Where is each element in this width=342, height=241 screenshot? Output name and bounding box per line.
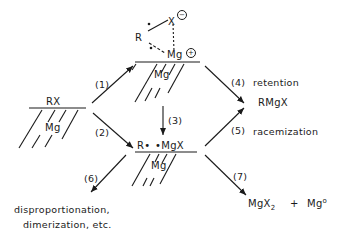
mg0-superscript: o: [323, 197, 328, 205]
r-radical-label: R•: [137, 141, 150, 151]
radical-dot-r-top: [148, 23, 151, 26]
grignard-product-label: RMgX: [258, 98, 288, 108]
complex-mg-label: Mg: [167, 50, 183, 60]
step-4-label: (4): [231, 78, 245, 88]
retention-label: retention: [253, 78, 299, 88]
side-products-line1: disproportionation,: [14, 205, 110, 215]
mechanism-diagram: RX Mg R X − Mg + Mg R• •MgX Mg (1) (2) (…: [0, 0, 342, 241]
start-mg-label: Mg: [45, 123, 61, 133]
step-6-label: (6): [84, 174, 98, 184]
plus-sign: +: [290, 199, 299, 209]
mg0-text: Mg: [307, 198, 323, 209]
step-1-label: (1): [95, 80, 109, 90]
complex-r-label: R: [135, 33, 142, 43]
step-7-label: (7): [233, 172, 247, 182]
step-5-label: (5): [231, 126, 245, 136]
r-x-bond: [148, 20, 168, 31]
mgx2-subscript: 2: [271, 204, 276, 212]
complex-mg-surface: [132, 62, 200, 102]
complex-x-label: X: [168, 17, 175, 27]
step-3-label: (3): [168, 116, 182, 126]
step-2-label: (2): [95, 128, 109, 138]
radical-pair-surface-mg-label: Mg: [151, 161, 167, 171]
racemization-label: racemization: [253, 127, 318, 137]
radical-dot-r-bottom: [150, 47, 153, 50]
rx-label: RX: [46, 97, 60, 107]
mg0-product-label: Mgo: [307, 199, 327, 209]
mgx-radical-label: •MgX: [155, 141, 184, 151]
side-products-line2: dimerization, etc.: [23, 220, 112, 230]
positive-charge-icon: +: [186, 48, 196, 58]
complex-surface-mg-label: Mg: [154, 70, 170, 80]
x-mg-bond: [173, 24, 174, 51]
negative-charge-icon: −: [177, 10, 187, 20]
mgx2-product-label: MgX2: [248, 199, 276, 209]
mgx2-text: MgX: [248, 198, 271, 209]
